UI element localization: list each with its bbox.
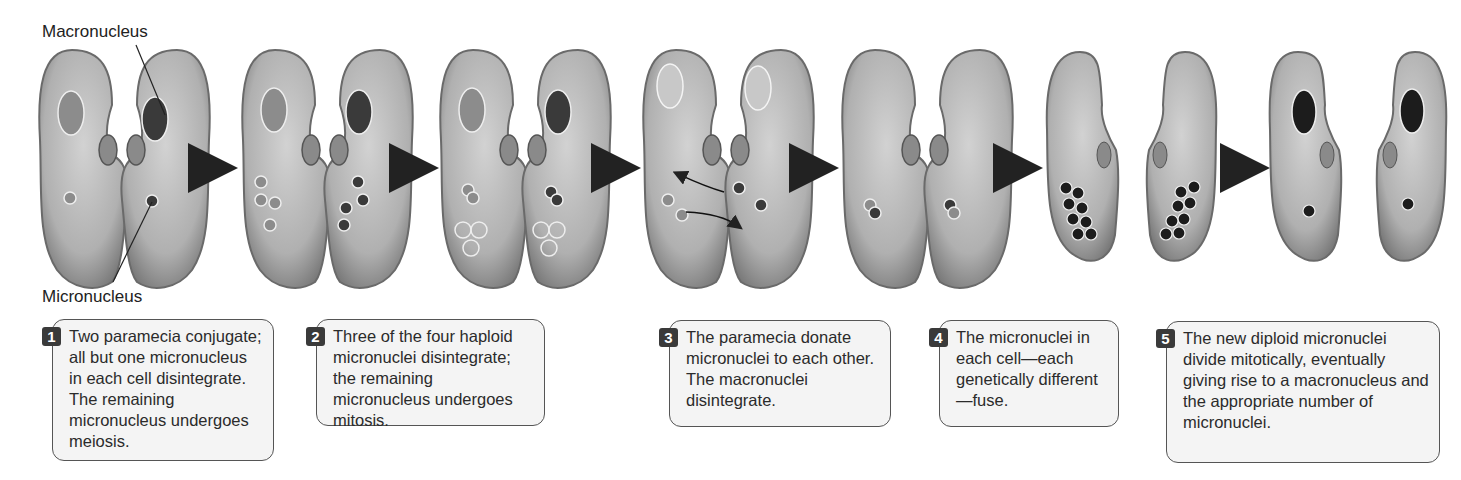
macronucleus-dark — [142, 97, 168, 141]
stage-2-cells — [242, 50, 413, 288]
step-4-text: The micronuclei in each cell—each geneti… — [956, 328, 1098, 409]
step-2-text: Three of the four haploid micronuclei di… — [333, 327, 513, 429]
stage-4-cells — [643, 50, 814, 288]
step-3-box: 3 The paramecia donate micronuclei to ea… — [669, 320, 891, 427]
stage-7-cells — [1270, 52, 1447, 261]
stage-6-cells — [1047, 52, 1217, 261]
stage-1-cells — [39, 50, 210, 288]
step-3-text: The paramecia donate micronuclei to each… — [686, 328, 874, 409]
step-number-badge: 5 — [1156, 329, 1175, 348]
step-2-box: 2 Three of the four haploid micronuclei … — [316, 319, 545, 426]
step-number-badge: 3 — [659, 328, 678, 347]
micronucleus-label: Micronucleus — [42, 287, 142, 307]
step-1-text: Two paramecia conjugate; all but one mic… — [69, 327, 262, 450]
step-1-box: 1 Two paramecia conjugate; all but one m… — [52, 319, 274, 461]
conjugation-diagram — [0, 0, 1461, 310]
step-number-badge: 2 — [306, 327, 325, 346]
step-number-badge: 4 — [929, 328, 948, 347]
macronucleus-label: Macronucleus — [42, 22, 148, 42]
step-5-text: The new diploid micronuclei divide mitot… — [1183, 329, 1429, 431]
step-4-box: 4 The micronuclei in each cell—each gene… — [939, 320, 1119, 427]
stage-5-cells — [842, 50, 1013, 288]
step-5-box: 5 The new diploid micronuclei divide mit… — [1166, 321, 1440, 463]
stage-3-cells — [440, 50, 611, 288]
step-number-badge: 1 — [42, 327, 61, 346]
macronucleus-light — [58, 91, 84, 135]
